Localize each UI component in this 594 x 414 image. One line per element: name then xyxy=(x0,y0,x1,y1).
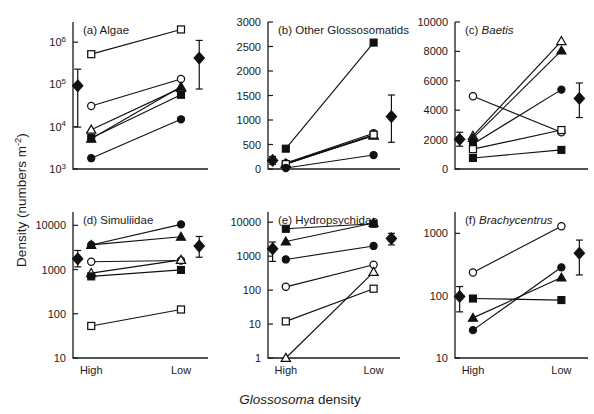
panel-f-y-tick-label: 1000 xyxy=(424,227,448,239)
data-point-filled-square xyxy=(178,91,185,98)
data-point-filled-diamond xyxy=(454,134,464,146)
panel-f-x-tick-label-low: Low xyxy=(551,364,571,376)
panel-c-series-line-open-circle xyxy=(473,96,561,132)
panel-b-y-tick-label: 0 xyxy=(255,163,261,175)
data-point-filled-circle xyxy=(469,327,476,334)
panel-f-y-tick-label: 10 xyxy=(436,352,448,364)
panel-b-y-tick-label: 2000 xyxy=(237,65,261,77)
data-point-filled-square xyxy=(558,146,565,153)
data-point-filled-square xyxy=(88,273,95,280)
panel-a-y-tick-label: 103 xyxy=(49,162,66,176)
data-point-filled-triangle xyxy=(176,232,185,240)
panel-f-x-tick-label-high: High xyxy=(462,364,485,376)
data-point-filled-square xyxy=(88,135,95,142)
data-point-open-square xyxy=(88,51,95,58)
panel-e-title: (e) Hydropsychidae xyxy=(278,214,378,226)
panel-f-series-line-open-circle xyxy=(473,226,561,272)
panel-c-y-tick-label: 4000 xyxy=(424,104,448,116)
panel-d-title: (d) Simuliidae xyxy=(83,214,153,226)
data-point-filled-diamond xyxy=(194,52,204,64)
data-point-open-square xyxy=(558,127,565,134)
panel-d-y-tick-label: 100 xyxy=(48,308,66,320)
panel-c-title: (c) Baetis xyxy=(465,24,514,36)
panel-e-series-line-filled-circle xyxy=(286,246,374,260)
data-point-filled-circle xyxy=(177,221,184,228)
data-point-open-circle xyxy=(88,258,95,265)
data-point-open-square xyxy=(370,285,377,292)
panel-c: 0200040006000800010000(c) Baetis xyxy=(417,16,588,175)
data-point-open-square xyxy=(178,26,185,33)
panel-e-y-tick-label: 10000 xyxy=(230,216,261,228)
data-point-filled-square xyxy=(282,145,289,152)
panel-d-y-tick-label: 10 xyxy=(54,352,66,364)
data-point-filled-diamond xyxy=(386,111,396,123)
data-point-filled-diamond xyxy=(574,93,584,105)
panel-b-series-line-filled-circle xyxy=(286,155,374,168)
panel-a-series-line-filled-circle xyxy=(91,119,181,158)
panel-c-y-tick-label: 0 xyxy=(442,163,448,175)
x-axis-title: Glossosoma density xyxy=(239,392,361,407)
panel-e-series-line-open-circle xyxy=(286,265,374,287)
panel-b-title: (b) Other Glossosomatids xyxy=(278,24,409,36)
panel-e-y-tick-label: 100 xyxy=(243,284,261,296)
panel-f-title: (f) Brachycentrus xyxy=(465,214,553,226)
data-point-filled-square xyxy=(558,297,565,304)
data-point-filled-triangle xyxy=(468,313,477,321)
panel-e-y-tick-label: 1000 xyxy=(237,250,261,262)
data-point-filled-diamond xyxy=(267,243,277,255)
panel-c-series-line-filled-triangle xyxy=(473,51,561,138)
data-point-open-triangle xyxy=(87,125,96,133)
data-point-filled-circle xyxy=(558,86,565,93)
panel-c-y-tick-label: 2000 xyxy=(424,134,448,146)
panel-c-series-line-open-triangle xyxy=(473,41,561,136)
panel-c-series-line-open-square xyxy=(473,130,561,149)
panel-b: 050010001500200025003000(b) Other Glosso… xyxy=(237,16,410,175)
panel-d-y-tick-label: 10000 xyxy=(35,219,66,231)
panel-a-y-tick-label: 105 xyxy=(49,77,66,91)
panel-f: 101001000(f) BrachycentrusHighLow xyxy=(424,212,588,376)
panel-f-y-tick-label: 100 xyxy=(430,290,448,302)
panel-d-series-line-filled-triangle xyxy=(91,237,181,245)
data-point-filled-circle xyxy=(558,264,565,271)
panel-b-y-tick-label: 2500 xyxy=(237,41,261,53)
panel-b-y-tick-label: 3000 xyxy=(237,16,261,28)
data-point-open-circle xyxy=(558,223,565,230)
panel-d-series-line-open-square xyxy=(91,309,181,325)
panel-e-series-line-open-triangle xyxy=(286,272,374,358)
panel-d-series-line-filled-circle xyxy=(91,224,181,245)
data-point-open-circle xyxy=(282,283,289,290)
figure-canvas: 103104105106(a) Algae0500100015002000250… xyxy=(0,0,594,414)
panel-c-series-line-filled-square xyxy=(473,150,561,158)
panel-a-y-tick-label: 104 xyxy=(49,119,66,133)
panel-e-x-tick-label-high: High xyxy=(275,364,298,376)
panel-d-x-tick-label-low: Low xyxy=(171,364,191,376)
data-point-filled-square xyxy=(178,266,185,273)
data-point-open-square xyxy=(88,322,95,329)
data-point-filled-square xyxy=(469,154,476,161)
data-point-filled-diamond xyxy=(574,247,584,259)
data-point-open-square xyxy=(178,306,185,313)
panel-b-series-line-filled-square xyxy=(286,43,374,149)
panel-e: 110100100010000(e) HydropsychidaeHighLow xyxy=(230,212,400,376)
data-point-filled-diamond xyxy=(194,240,204,252)
panel-c-y-tick-label: 8000 xyxy=(424,45,448,57)
data-point-filled-diamond xyxy=(454,291,464,303)
panel-c-y-tick-label: 6000 xyxy=(424,75,448,87)
data-point-filled-circle xyxy=(370,242,377,249)
data-point-filled-diamond xyxy=(386,233,396,245)
data-point-filled-circle xyxy=(177,116,184,123)
data-point-open-triangle xyxy=(557,37,566,45)
panel-e-series-line-open-square xyxy=(286,289,374,322)
panel-d-x-tick-label-high: High xyxy=(80,364,103,376)
panel-a-series-line-filled-square xyxy=(91,95,181,138)
data-point-filled-circle xyxy=(282,164,289,171)
data-point-filled-circle xyxy=(88,155,95,162)
data-point-filled-square xyxy=(370,39,377,46)
panel-a-y-tick-label: 106 xyxy=(49,35,66,49)
panel-b-y-tick-label: 1500 xyxy=(237,90,261,102)
panel-e-y-tick-label: 10 xyxy=(249,318,261,330)
data-point-filled-diamond xyxy=(267,155,277,167)
y-axis-title: Density (numbers m-2) xyxy=(12,133,29,267)
panel-b-y-tick-label: 500 xyxy=(243,139,261,151)
data-point-filled-triangle xyxy=(176,82,185,90)
